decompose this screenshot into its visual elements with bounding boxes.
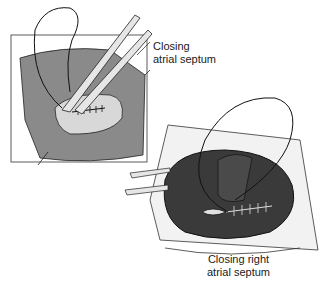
retractor-line	[145, 70, 150, 75]
label-closing-atrial-septum: Closing atrial septum	[153, 40, 216, 66]
label-line: Closing right	[207, 253, 270, 266]
label-line: atrial septum	[207, 266, 270, 279]
label-line: atrial septum	[153, 53, 216, 66]
label-line: Closing	[153, 40, 216, 53]
label-closing-right-atrial-septum: Closing right atrial septum	[207, 253, 270, 279]
